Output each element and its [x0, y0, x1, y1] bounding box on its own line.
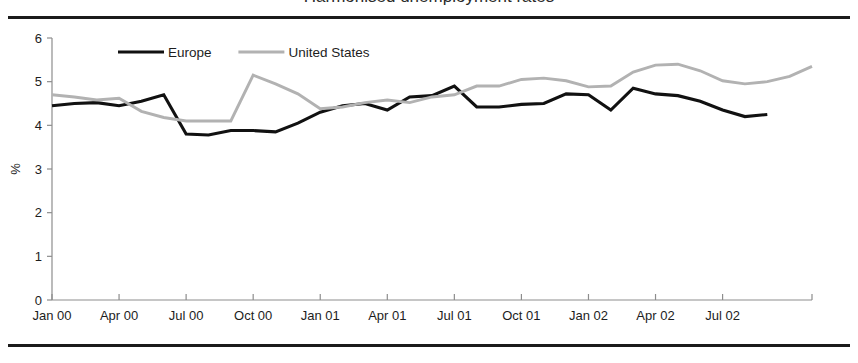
- y-tick-label: 3: [35, 162, 42, 177]
- plot-area: 0123456% Jan 00Apr 00Jul 00Oct 00Jan 01A…: [0, 20, 858, 340]
- x-tick-label: Jan 00: [32, 308, 71, 323]
- y-tick-label: 2: [35, 205, 42, 220]
- series-line-europe: [52, 86, 767, 135]
- y-tick-label: 4: [35, 118, 42, 133]
- y-axis: 0123456%: [8, 31, 52, 308]
- x-tick-label: Jul 02: [705, 308, 740, 323]
- x-tick-label: Jan 01: [301, 308, 340, 323]
- clipped-title-fragment: Harmonised unemployment rates: [0, 0, 858, 5]
- x-tick-label: Jul 01: [437, 308, 472, 323]
- x-tick-label: Apr 01: [368, 308, 406, 323]
- y-tick-label: 5: [35, 74, 42, 89]
- y-tick-label: 1: [35, 249, 42, 264]
- x-axis: Jan 00Apr 00Jul 00Oct 00Jan 01Apr 01Jul …: [32, 294, 812, 323]
- y-axis-title: %: [8, 163, 23, 175]
- chart-page: Harmonised unemployment rates 0123456% J…: [0, 0, 858, 363]
- y-tick-label: 6: [35, 31, 42, 46]
- top-divider-rule: [8, 16, 850, 19]
- legend-label-united-states: United States: [288, 45, 369, 60]
- x-tick-label: Apr 00: [100, 308, 138, 323]
- x-tick-label: Apr 02: [636, 308, 674, 323]
- x-tick-label: Oct 01: [502, 308, 540, 323]
- chart-legend: EuropeUnited States: [118, 45, 370, 60]
- x-tick-label: Jan 02: [569, 308, 608, 323]
- series-line-united-states: [52, 64, 812, 121]
- series-lines: [52, 64, 812, 135]
- x-tick-label: Jul 00: [169, 308, 204, 323]
- bottom-divider-rule: [8, 344, 850, 347]
- x-tick-label: Oct 00: [234, 308, 272, 323]
- legend-label-europe: Europe: [168, 45, 212, 60]
- y-tick-label: 0: [35, 293, 42, 308]
- line-chart: 0123456% Jan 00Apr 00Jul 00Oct 00Jan 01A…: [0, 20, 858, 340]
